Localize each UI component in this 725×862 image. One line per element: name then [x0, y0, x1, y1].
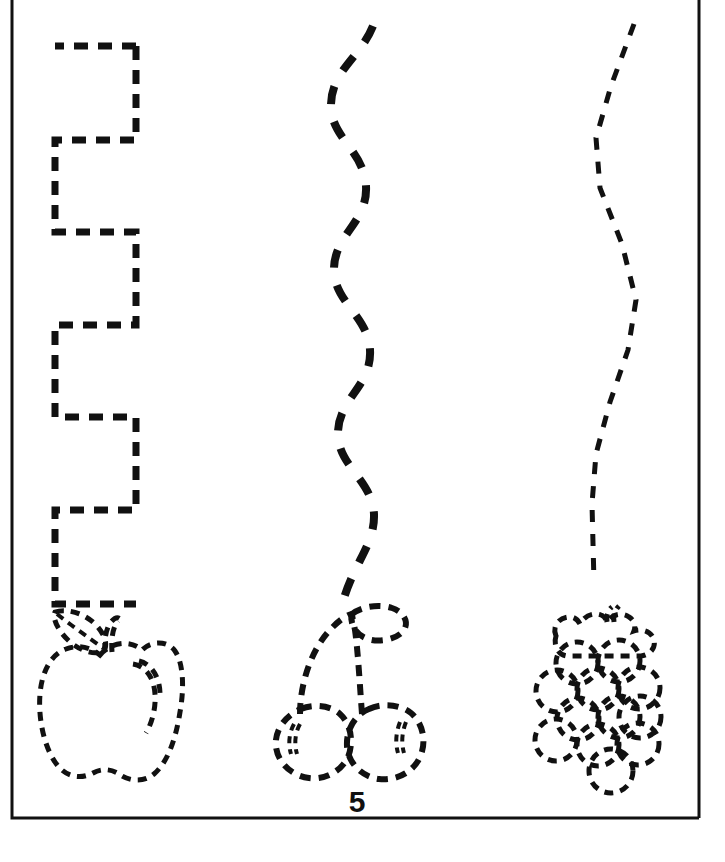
grapes-outline — [535, 606, 661, 793]
worksheet-page: 5 — [0, 0, 725, 862]
zigzag-trace-path[interactable] — [592, 24, 636, 582]
worksheet-canvas: 5 — [0, 0, 725, 862]
page-number: 5 — [349, 785, 366, 818]
column-cherries — [276, 26, 424, 779]
apple-outline — [40, 611, 183, 780]
column-grapes — [535, 24, 661, 793]
square-wave-trace-path[interactable] — [55, 46, 136, 604]
wavy-trace-path[interactable] — [331, 26, 374, 598]
cherries-outline — [276, 606, 424, 779]
column-apple — [40, 46, 183, 780]
worksheet-frame — [12, 0, 699, 818]
